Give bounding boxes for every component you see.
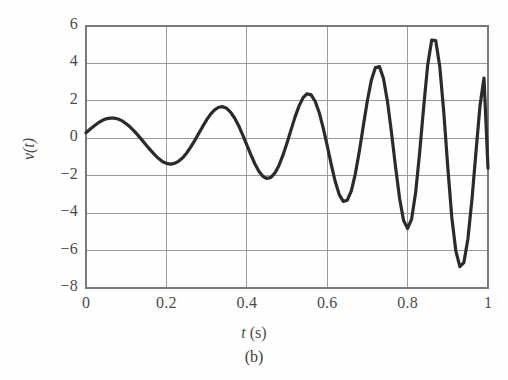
x-tick-label: 1	[458, 294, 508, 312]
y-tick-label: 0	[38, 127, 78, 145]
data-curve	[86, 40, 488, 267]
figure-panel-b: 6420−2−4−6−8 00.20.40.60.81 v(t) t (s) (…	[0, 0, 508, 380]
x-axis-label-var: t	[241, 324, 245, 341]
x-tick-label: 0.8	[378, 294, 438, 312]
y-axis-label-var: v	[20, 153, 37, 160]
y-tick-label: 6	[38, 15, 78, 33]
series-line	[86, 40, 488, 267]
y-axis-label: v(t)	[20, 114, 38, 184]
x-axis-label-unit: (s)	[250, 324, 267, 341]
x-tick-label: 0	[56, 294, 116, 312]
y-tick-label: 2	[38, 90, 78, 108]
y-tick-label: −8	[38, 277, 78, 295]
y-tick-label: 4	[38, 52, 78, 70]
y-tick-label: −4	[38, 202, 78, 220]
y-axis-label-arg: (t)	[20, 138, 37, 153]
x-tick-label: 0.2	[136, 294, 196, 312]
y-tick-label: −2	[38, 165, 78, 183]
panel-caption: (b)	[0, 348, 508, 366]
y-tick-label: −6	[38, 240, 78, 258]
x-tick-label: 0.6	[297, 294, 357, 312]
x-axis-label: t (s)	[0, 324, 508, 342]
x-tick-label: 0.4	[217, 294, 277, 312]
